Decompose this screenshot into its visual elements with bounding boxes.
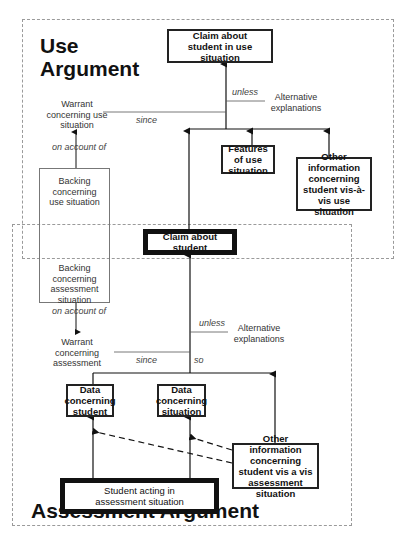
other-info-use-situation-box: Other information concerning student vis… bbox=[296, 157, 372, 211]
use-unless-label: unless bbox=[232, 87, 258, 98]
claim-in-use-situation-box: Claim about student in use situation bbox=[167, 29, 273, 63]
assessment-unless-label: unless bbox=[199, 318, 225, 329]
assessment-alternative-explanations-label: Alternative explanations bbox=[231, 323, 287, 344]
use-since-label: since bbox=[136, 115, 157, 126]
title-line-1: Use bbox=[40, 34, 139, 57]
assessment-on-account-of-label: on account of bbox=[52, 306, 106, 317]
use-backing-label: Backing concerning use situation bbox=[44, 176, 105, 208]
claim-about-student-box: Claim about student bbox=[143, 229, 237, 255]
assessment-since-label: since bbox=[136, 355, 157, 366]
assessment-backing-label: Backing concerning assessment situation bbox=[44, 263, 105, 305]
other-info-assessment-situation-box: Other information concerning student vis… bbox=[232, 443, 319, 489]
use-alternative-explanations-label: Alternative explanations bbox=[268, 92, 324, 113]
assessment-warrant-label: Warrant concerning assessment bbox=[52, 337, 102, 369]
data-concerning-student-box: Data concerning student bbox=[66, 384, 114, 417]
title-line-2: Argument bbox=[40, 57, 139, 80]
assessment-so-label: so bbox=[194, 355, 204, 366]
features-of-use-situation-box: Features of use situation bbox=[221, 145, 275, 174]
use-warrant-label: Warrant concerning use situation bbox=[46, 99, 108, 131]
data-concerning-situation-box: Data concerning situation bbox=[157, 384, 206, 417]
use-argument-title: Use Argument bbox=[40, 34, 139, 80]
use-on-account-of-label: on account of bbox=[52, 142, 106, 153]
student-acting-box: Student acting in assessment situation bbox=[60, 478, 219, 514]
